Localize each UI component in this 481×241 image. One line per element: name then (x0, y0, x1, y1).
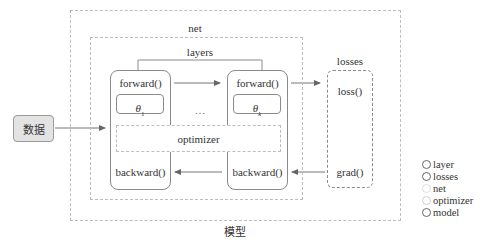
legend-label: optimizer (433, 195, 473, 206)
layer-first-param-box: θ1 (116, 94, 164, 114)
legend: layer losses net optimizer model (422, 158, 473, 218)
legend-label: losses (433, 171, 458, 182)
legend-label: layer (433, 159, 454, 170)
grad-function: grad() (327, 166, 373, 178)
legend-label: model (433, 207, 459, 218)
ellipsis: … (185, 104, 215, 116)
layer-last-forward: forward() (227, 77, 288, 89)
theta-subscript: 1 (141, 110, 145, 118)
circle-icon (422, 196, 431, 205)
net-label: net (180, 22, 210, 34)
layer-first-backward: backward() (110, 166, 171, 178)
legend-item-optimizer: optimizer (422, 194, 473, 206)
input-data-box: 数据 (13, 115, 54, 142)
model-label: 模型 (210, 226, 260, 238)
circle-icon (422, 172, 431, 181)
circle-icon (422, 208, 431, 217)
layer-first-forward: forward() (110, 77, 171, 89)
optimizer-label: optimizer (116, 133, 281, 145)
legend-label: net (433, 183, 446, 194)
loss-function: loss() (327, 85, 373, 97)
layers-label: layers (175, 46, 225, 58)
legend-item-model: model (422, 206, 473, 218)
circle-icon (422, 184, 431, 193)
legend-item-layer: layer (422, 158, 473, 170)
legend-item-net: net (422, 182, 473, 194)
losses-label: losses (327, 55, 373, 67)
layer-last-param-box: θk (233, 94, 281, 114)
circle-icon (422, 160, 431, 169)
legend-item-losses: losses (422, 170, 473, 182)
theta-subscript: k (258, 110, 261, 118)
layer-last-backward: backward() (227, 166, 288, 178)
